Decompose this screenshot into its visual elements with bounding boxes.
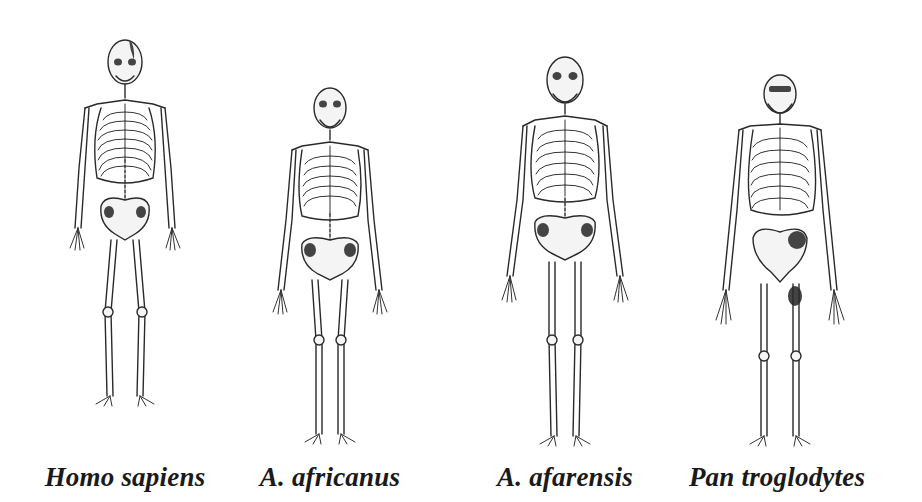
a-africanus-skeleton xyxy=(250,0,410,460)
homo-sapiens-skeleton xyxy=(45,0,205,460)
pan-troglodytes-skeleton xyxy=(695,0,865,460)
label-homo-sapiens: Homo sapiens xyxy=(45,462,206,493)
label-a-africanus: A. africanus xyxy=(260,462,400,493)
a-afarensis-skeleton xyxy=(485,0,645,460)
label-pan-troglodytes: Pan troglodytes xyxy=(689,462,865,493)
label-a-afarensis: A. afarensis xyxy=(497,462,633,493)
skeleton-comparison-figure: Homo sapiens A. africanus A. afarensis P… xyxy=(0,0,922,502)
